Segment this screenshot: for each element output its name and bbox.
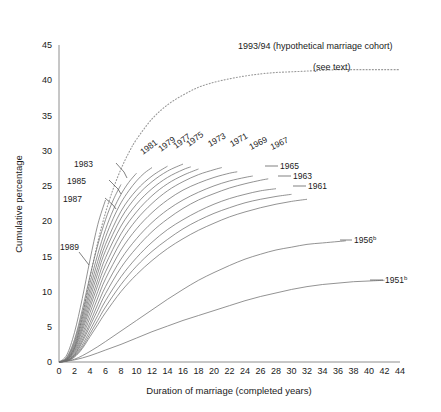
series-curves bbox=[59, 70, 400, 362]
curve-1951 bbox=[59, 280, 385, 362]
x-tick-16: 16 bbox=[178, 366, 188, 376]
annotation-1993-cohort: 1993/94 (hypothetical marriage cohort) bbox=[238, 41, 393, 51]
x-tick-4: 4 bbox=[87, 366, 92, 376]
series-label-1973: 1973 bbox=[206, 130, 228, 148]
curve-1961 bbox=[59, 199, 307, 362]
y-tick-40: 40 bbox=[42, 75, 52, 85]
x-tick-26: 26 bbox=[255, 366, 265, 376]
x-tick-36: 36 bbox=[333, 366, 343, 376]
x-tick-12: 12 bbox=[147, 366, 157, 376]
y-axis-title: Cumulative percentage bbox=[13, 155, 24, 253]
x-tick-0: 0 bbox=[56, 366, 61, 376]
x-tick-20: 20 bbox=[209, 366, 219, 376]
y-tick-10: 10 bbox=[42, 287, 52, 297]
curve-1965 bbox=[59, 189, 276, 362]
annotation-see-text: (see text) bbox=[313, 62, 351, 72]
axes bbox=[59, 45, 400, 362]
x-tick-28: 28 bbox=[271, 366, 281, 376]
y-tick-0: 0 bbox=[47, 357, 52, 367]
series-label-superscript: b bbox=[373, 235, 377, 241]
series-label-1969: 1969 bbox=[247, 134, 269, 152]
chart-figure: 051015202530354045 024681012141618202224… bbox=[0, 0, 441, 412]
curve-1967 bbox=[59, 179, 268, 362]
x-axis-title: Duration of marriage (completed years) bbox=[146, 385, 311, 396]
y-tick-20: 20 bbox=[42, 216, 52, 226]
x-tick-44: 44 bbox=[395, 366, 405, 376]
leader-1985 bbox=[109, 180, 121, 194]
cumulative-percentage-line-chart: 051015202530354045 024681012141618202224… bbox=[0, 0, 441, 412]
y-tick-5: 5 bbox=[47, 322, 52, 332]
curve-1973 bbox=[59, 168, 222, 362]
series-label-1983: 1983 bbox=[74, 159, 93, 169]
series-label-1963: 1963 bbox=[293, 171, 312, 181]
x-tick-32: 32 bbox=[302, 366, 312, 376]
series-label-1989: 1989 bbox=[60, 242, 79, 252]
x-tick-42: 42 bbox=[379, 366, 389, 376]
series-label-1956: 1956b bbox=[354, 235, 377, 245]
x-tick-40: 40 bbox=[364, 366, 374, 376]
curve-1993-94 bbox=[59, 70, 400, 362]
series-label-1951: 1951b bbox=[385, 275, 408, 285]
series-label-1975: 1975 bbox=[184, 129, 205, 149]
x-tick-6: 6 bbox=[103, 366, 108, 376]
series-labels: 1989198719851983198119791977197519731971… bbox=[60, 129, 408, 285]
series-label-1965: 1965 bbox=[280, 161, 299, 171]
x-tick-labels: 0246810121416182022242628303234363840424… bbox=[56, 366, 405, 376]
y-tick-labels: 051015202530354045 bbox=[42, 40, 52, 367]
x-tick-14: 14 bbox=[162, 366, 172, 376]
x-tick-8: 8 bbox=[118, 366, 123, 376]
curve-1987 bbox=[59, 184, 121, 362]
curve-1963 bbox=[59, 194, 292, 362]
y-tick-25: 25 bbox=[42, 181, 52, 191]
y-tick-35: 35 bbox=[42, 111, 52, 121]
y-tick-30: 30 bbox=[42, 146, 52, 156]
x-tick-34: 34 bbox=[317, 366, 327, 376]
series-label-1961: 1961 bbox=[308, 181, 327, 191]
series-label-1967: 1967 bbox=[269, 135, 291, 152]
x-tick-18: 18 bbox=[193, 366, 203, 376]
x-tick-30: 30 bbox=[286, 366, 296, 376]
series-label-1971: 1971 bbox=[228, 130, 250, 148]
x-tick-24: 24 bbox=[240, 366, 250, 376]
series-label-1985: 1985 bbox=[67, 176, 86, 186]
leader-1989 bbox=[79, 252, 89, 265]
y-tick-45: 45 bbox=[42, 40, 52, 50]
y-tick-15: 15 bbox=[42, 252, 52, 262]
leader-1983 bbox=[116, 163, 127, 178]
x-tick-10: 10 bbox=[131, 366, 141, 376]
x-tick-2: 2 bbox=[72, 366, 77, 376]
series-label-superscript: b bbox=[404, 275, 408, 281]
x-tick-22: 22 bbox=[224, 366, 234, 376]
series-label-1987: 1987 bbox=[63, 194, 82, 204]
x-tick-38: 38 bbox=[348, 366, 358, 376]
